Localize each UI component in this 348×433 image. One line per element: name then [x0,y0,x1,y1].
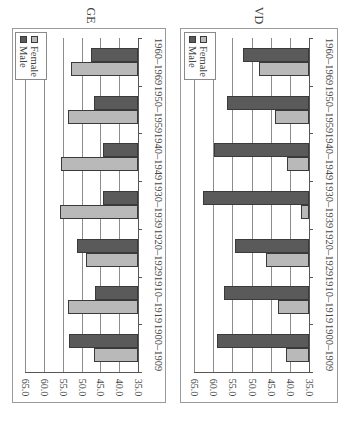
category-axis-line [194,372,309,373]
bar-male [235,239,309,253]
value-tick-label: 50.0 [77,373,88,403]
female-swatch-icon [200,36,207,43]
bar-female [275,110,309,124]
value-tick-label: 65.0 [189,373,200,403]
bar-male [243,48,309,62]
category-tick [309,133,313,134]
bar-male [103,191,138,205]
legend-item-female: Female [29,36,40,77]
category-tick [138,181,142,182]
value-tick-label: 55.0 [227,373,238,403]
bar-female [68,110,138,124]
category-tick [309,277,313,278]
male-swatch-icon [20,36,27,43]
gridline [271,38,272,372]
gridline [232,38,233,372]
category-tick [138,229,142,230]
value-tick-label: 60.0 [208,373,219,403]
gridline [213,38,214,372]
value-axis-line [138,38,139,372]
legend-item-female: Female [198,36,209,77]
category-label: 1960–1969 [153,26,164,96]
category-tick [309,86,313,87]
bar-female [278,300,309,314]
legend-item-male: Male [18,36,29,68]
legend-label-male: Male [187,46,198,68]
value-tick-label: 45.0 [95,373,106,403]
gridline [44,38,45,372]
category-tick [309,181,313,182]
value-tick-label: 40.0 [114,373,125,403]
bar-female [86,253,138,267]
bar-male [77,239,138,253]
value-tick-label: 55.0 [58,373,69,403]
value-tick-label: 40.0 [285,373,296,403]
bar-male [214,143,309,157]
category-tick [309,372,313,373]
bar-female [301,205,309,219]
bar-male [217,334,309,348]
value-tick-label: 35.0 [304,373,315,403]
value-tick-label: 50.0 [247,373,258,403]
category-tick [138,133,142,134]
legend-label-female: Female [198,46,209,77]
category-tick [309,38,313,39]
value-tick-label: 65.0 [20,373,31,403]
bar-female [60,205,138,219]
bar-female [68,300,138,314]
category-tick [138,38,142,39]
category-tick [138,86,142,87]
category-axis-line [25,372,138,373]
bar-male [227,96,309,110]
category-tick [309,324,313,325]
bar-male [203,191,309,205]
bar-male [91,48,138,62]
legend-label-male: Male [18,46,29,68]
bar-female [259,62,309,76]
category-tick [138,277,142,278]
bar-female [71,62,138,76]
category-tick [138,324,142,325]
value-tick-label: 45.0 [266,373,277,403]
legend-item-male: Male [187,36,198,68]
chart-title-vd: VD [251,7,266,24]
gridline [194,38,195,372]
legend: FemaleMale [184,32,216,80]
bar-male [95,286,138,300]
value-axis-line [309,38,310,372]
legend: FemaleMale [15,32,47,80]
bar-female [286,348,309,362]
gridline [25,38,26,372]
bar-male [94,96,138,110]
bar-male [69,334,138,348]
male-swatch-icon [189,36,196,43]
bar-female [287,157,309,171]
bar-male [103,143,138,157]
bar-female [266,253,309,267]
gridline [290,38,291,372]
chart-title-ge: GE [83,8,98,24]
value-tick-label: 60.0 [39,373,50,403]
bar-male [224,286,309,300]
gridline [252,38,253,372]
category-tick [138,372,142,373]
value-tick-label: 35.0 [133,373,144,403]
female-swatch-icon [31,36,38,43]
category-label: 1960–1969 [324,26,335,96]
legend-label-female: Female [29,46,40,77]
bar-female [61,157,138,171]
category-tick [309,229,313,230]
bar-female [94,348,138,362]
